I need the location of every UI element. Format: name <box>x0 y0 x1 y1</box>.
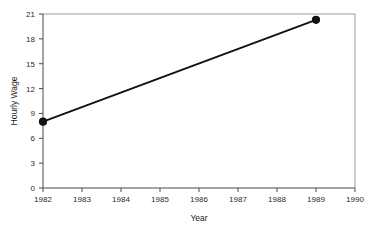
y-tick-label: 9 <box>31 109 36 118</box>
y-axis-title: Hourly Wage <box>9 76 19 125</box>
x-tick-label: 1983 <box>73 195 91 204</box>
data-point-marker <box>312 16 320 24</box>
x-tick-label: 1990 <box>346 195 364 204</box>
x-tick-label: 1986 <box>190 195 208 204</box>
y-tick-label: 0 <box>31 184 36 193</box>
data-point-marker <box>39 118 47 126</box>
x-axis-title: Year <box>190 213 207 223</box>
y-tick-label: 18 <box>26 35 35 44</box>
y-tick-label: 15 <box>26 60 35 69</box>
chart-container: 036912151821 198219831984198519861987198… <box>0 0 375 231</box>
y-tick-label: 12 <box>26 85 35 94</box>
y-tick-label: 21 <box>26 10 35 19</box>
x-tick-label: 1987 <box>229 195 247 204</box>
line-chart: 036912151821 198219831984198519861987198… <box>0 0 375 231</box>
x-tick-label: 1988 <box>268 195 286 204</box>
x-tick-label: 1985 <box>151 195 169 204</box>
y-tick-label: 3 <box>31 159 36 168</box>
x-tick-label: 1989 <box>307 195 325 204</box>
x-tick-label: 1984 <box>112 195 130 204</box>
x-tick-label: 1982 <box>34 195 52 204</box>
y-tick-label: 6 <box>31 134 36 143</box>
